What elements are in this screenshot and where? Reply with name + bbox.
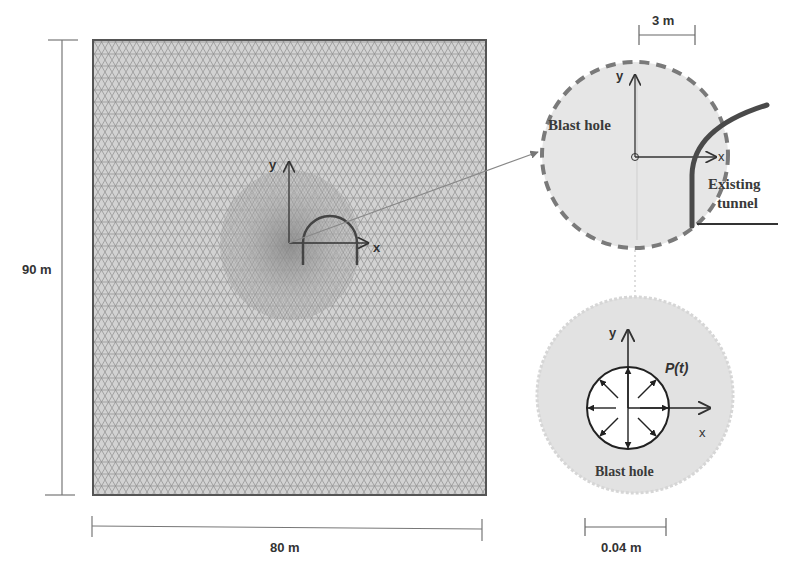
top-scale-label: 3 m: [652, 13, 674, 28]
height-label: 90 m: [22, 262, 52, 277]
top-blast-hole-label: Blast hole: [548, 117, 611, 134]
detail-bottom: [537, 297, 733, 536]
bottom-y-axis-label: y: [609, 325, 616, 340]
bottom-x-axis-label: x: [699, 425, 706, 440]
pressure-arrows: [588, 368, 668, 448]
top-y-axis-label: y: [616, 68, 623, 83]
bottom-blast-hole-label: Blast hole: [595, 464, 654, 480]
mesh-panel: [93, 40, 538, 495]
bottom-scale-label: 0.04 m: [601, 540, 641, 555]
pressure-label: P(t): [665, 360, 688, 376]
top-x-axis-label: x: [718, 149, 725, 164]
tunnel-label-line1: Existing: [708, 176, 761, 193]
width-label: 80 m: [270, 540, 300, 555]
mesh-x-axis-label: x: [373, 240, 380, 255]
width-dimension: [92, 516, 482, 541]
figure-canvas: [0, 0, 805, 580]
detail-top: [542, 25, 778, 248]
mesh-y-axis-label: y: [269, 157, 276, 172]
tunnel-label-line2: tunnel: [717, 195, 758, 212]
mesh-refinement-shade: [225, 175, 355, 315]
